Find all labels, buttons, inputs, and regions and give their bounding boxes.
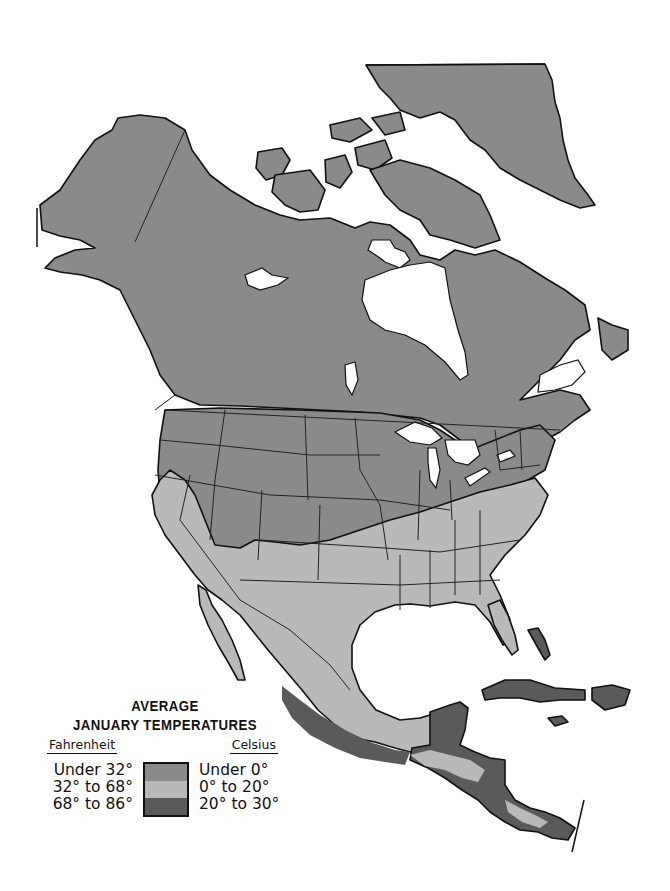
legend-f-68-86: 68° to 86° [30,796,133,813]
legend-c-0-20: 0° to 20° [199,779,279,796]
hispaniola [592,685,630,710]
central-america-warm [410,702,575,840]
map-edge-tick-right [572,800,584,852]
map-legend: AVERAGE JANUARY TEMPERATURES Fahrenheit … [30,696,300,817]
arctic-island [372,112,405,135]
legend-f-32-68: 32° to 68° [30,779,133,796]
legend-c-under-0: Under 0° [199,762,279,779]
legend-title-line2: JANUARY TEMPERATURES [46,715,284,734]
arctic-island [325,155,352,188]
legend-title-line1: AVERAGE [46,696,284,715]
arctic-island [272,170,325,212]
cuba [482,680,585,702]
legend-body: Under 32° 32° to 68° 68° to 86° Under 0°… [30,762,300,817]
arctic-island [330,118,372,142]
swatch-mild [145,781,187,798]
legend-swatches [143,762,189,817]
celsius-header: Celsius [230,737,278,754]
legend-headers: Fahrenheit Celsius [30,737,300,754]
celsius-column: Under 0° 0° to 20° 20° to 30° [189,762,279,813]
bahamas [528,628,550,660]
jamaica [548,716,568,726]
map-edge-tick-top [366,64,545,65]
swatch-cold [145,764,187,781]
fahrenheit-header: Fahrenheit [47,737,117,754]
legend-c-20-30: 20° to 30° [199,796,279,813]
newfoundland [598,318,628,360]
legend-f-under-32: Under 32° [30,762,133,779]
fahrenheit-column: Under 32° 32° to 68° 68° to 86° [30,762,133,813]
swatch-warm [145,798,187,815]
